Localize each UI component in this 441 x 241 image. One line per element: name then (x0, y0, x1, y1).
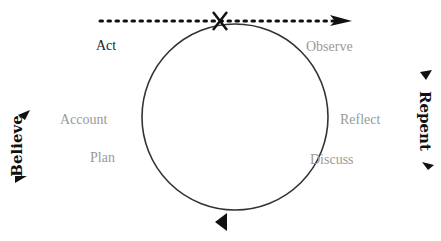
stage-act: Act (96, 38, 116, 54)
stage-plan: Plan (90, 150, 115, 166)
triangle-down-icon (15, 176, 27, 183)
triangle-up-right-icon (422, 162, 434, 170)
stage-discuss: Discuss (310, 152, 354, 168)
stage-observe: Observe (306, 39, 353, 55)
triangle-down-right-icon (420, 70, 432, 80)
repent-label: Repent (416, 91, 434, 151)
believe-label: Believe (8, 115, 26, 176)
stage-reflect: Reflect (340, 112, 380, 128)
stage-account: Account (60, 112, 107, 128)
cycle-circle (142, 24, 328, 210)
arrowhead-left-icon (215, 213, 227, 231)
